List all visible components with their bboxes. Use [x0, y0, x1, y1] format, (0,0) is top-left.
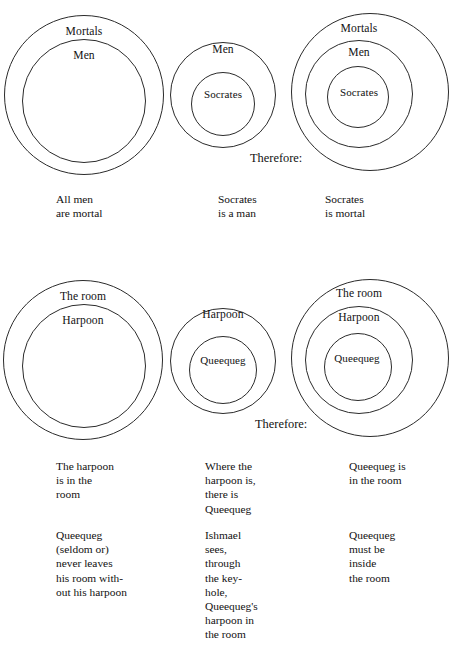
- caption-line: Queequeg's: [205, 599, 258, 613]
- caption-line: Queequeg: [205, 502, 256, 516]
- circle-label-the-room: The room: [308, 288, 410, 300]
- caption-line: inside: [349, 556, 395, 570]
- caption2-panel-where-harpoon-is: Ishmael sees, through the key- hole, Que…: [205, 528, 258, 642]
- caption2-panel-queequeg-in-room: Queequeg must be inside the room: [349, 528, 395, 585]
- caption-line: the key-: [205, 571, 258, 585]
- caption-line: (seldom or): [56, 542, 127, 556]
- caption-line: Queequeg is: [349, 459, 406, 473]
- caption-line: Queequeg: [56, 528, 127, 542]
- caption-panel-queequeg-in-room: Queequeg is in the room: [349, 459, 406, 487]
- caption-panel-where-harpoon-is: Where the harpoon is, there is Queequeg: [205, 459, 256, 516]
- circle-label-harpoon: Harpoon: [173, 309, 273, 321]
- caption-line: Queequeg: [349, 528, 395, 542]
- therefore-connector-queequeg: Therefore:: [255, 418, 307, 431]
- circle-label-the-room: The room: [23, 291, 143, 303]
- circle-queequeg-inner: [189, 336, 257, 404]
- caption-line: the room: [205, 627, 258, 641]
- circle-label-harpoon: Harpoon: [308, 312, 410, 324]
- caption-line: harpoon in: [205, 613, 258, 627]
- caption2-panel-harpoon-in-room: Queequeg (seldom or) never leaves his ro…: [56, 528, 127, 599]
- caption-line: must be: [349, 542, 395, 556]
- caption-line: the room: [349, 571, 395, 585]
- caption-panel-harpoon-in-room: The harpoon is in the room: [56, 459, 114, 502]
- caption-line: hole,: [205, 585, 258, 599]
- caption-line: out his harpoon: [56, 585, 127, 599]
- caption-line: through: [205, 556, 258, 570]
- caption-line: sees,: [205, 542, 258, 556]
- caption-line: The harpoon: [56, 459, 114, 473]
- caption-line: his room with-: [56, 571, 127, 585]
- caption-line: in the room: [349, 473, 406, 487]
- caption-line: room: [56, 487, 114, 501]
- caption-line: is in the: [56, 473, 114, 487]
- caption-line: harpoon is,: [205, 473, 256, 487]
- circle-label-queequeg: Queequeg: [306, 352, 408, 364]
- caption-line: never leaves: [56, 556, 127, 570]
- caption-line: there is: [205, 487, 256, 501]
- circle-queequeg-inner: [324, 333, 392, 401]
- circle-label-harpoon: Harpoon: [23, 315, 143, 327]
- circle-label-queequeg: Queequeg: [173, 354, 273, 366]
- caption-line: Ishmael: [205, 528, 258, 542]
- caption-line: Where the: [205, 459, 256, 473]
